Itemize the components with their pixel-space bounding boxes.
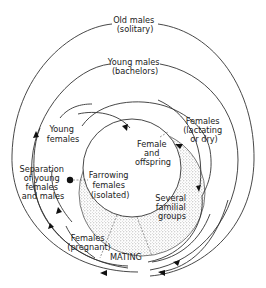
farrowing-dot bbox=[67, 177, 73, 183]
social-cycle-diagram: Old males (solitary) Young males (bachel… bbox=[0, 0, 266, 288]
label-young-females: Young females bbox=[47, 124, 80, 144]
label-mating: MATING bbox=[110, 252, 142, 262]
label-familial-groups: Several familial groups bbox=[155, 193, 188, 221]
label-females-pregnant: Females (pregnant) bbox=[67, 233, 111, 252]
label-separation: Separation of young females and males bbox=[19, 164, 66, 201]
label-farrowing: Farrowing females (isolated) bbox=[89, 170, 131, 200]
label-young-males: Young males (bachelors) bbox=[107, 57, 162, 76]
young-females-arc bbox=[60, 104, 92, 118]
label-old-males: Old males (solitary) bbox=[113, 15, 157, 34]
arrow-head bbox=[100, 270, 107, 276]
label-females-lactating: Females (lactating or dry) bbox=[183, 116, 225, 144]
arrow-head bbox=[56, 207, 62, 214]
